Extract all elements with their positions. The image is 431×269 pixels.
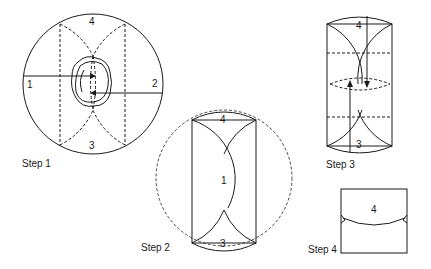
folding-diagram: [0, 0, 431, 269]
step-2-label: Step 2: [141, 243, 170, 253]
step-1-circle: [23, 14, 163, 154]
step-4-drawing: [341, 189, 407, 253]
step-3-rect: [327, 24, 392, 146]
step-1-number-bottom: 3: [89, 141, 95, 151]
step-3-drawing: [327, 16, 392, 153]
step-1-label: Step 1: [22, 159, 51, 169]
step-2-number-center: 1: [221, 176, 227, 186]
step-3-label: Step 3: [326, 160, 355, 170]
step-2-number-bottom: 3: [220, 239, 226, 249]
step-3-number-top: 4: [356, 21, 362, 31]
step-4-number-top: 4: [371, 205, 377, 215]
step-2-number-top: 4: [220, 115, 226, 125]
food-item: [72, 57, 112, 107]
step-1-number-top: 4: [89, 17, 95, 27]
step-3-number-bottom: 3: [356, 140, 362, 150]
step-1-number-right: 2: [152, 79, 158, 89]
step-1-number-left: 1: [27, 80, 33, 90]
step-4-label: Step 4: [308, 245, 337, 255]
step-1-drawing: [23, 14, 163, 154]
